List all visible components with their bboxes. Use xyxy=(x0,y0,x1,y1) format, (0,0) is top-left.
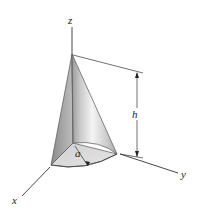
cone-diagram: z x y a h xyxy=(0,0,197,216)
x-axis-label: x xyxy=(11,194,17,206)
cone-curved-surface xyxy=(72,54,117,154)
x-axis-line xyxy=(22,167,50,196)
y-axis-line xyxy=(120,154,178,173)
height-extension-top xyxy=(73,55,143,73)
height-arrowhead-bottom xyxy=(135,151,139,157)
height-arrowhead-top xyxy=(135,72,139,78)
z-axis-label: z xyxy=(67,14,73,26)
diagram-canvas: z x y a h xyxy=(0,0,197,216)
radius-label: a xyxy=(75,147,81,159)
height-label: h xyxy=(132,108,138,120)
y-axis-label: y xyxy=(180,168,186,180)
